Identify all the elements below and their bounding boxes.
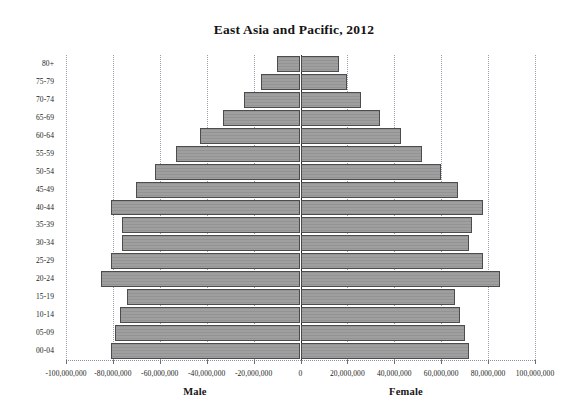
pyramid-row	[66, 145, 535, 163]
y-tick-label-20-24: 20-24	[0, 274, 54, 283]
x-tick-label-40000000: 40,000,000	[377, 369, 412, 378]
bar-female-55-59	[301, 146, 423, 162]
x-tick-label--40000000: -40,000,000	[188, 369, 225, 378]
bar-female-05-09	[301, 325, 465, 341]
y-tick-label-35-39: 35-39	[0, 220, 54, 229]
y-tick-label-60-64: 60-64	[0, 131, 54, 140]
pyramid-row	[66, 306, 535, 324]
bar-male-50-54	[155, 164, 300, 180]
x-tick-mark-60000000	[441, 360, 442, 364]
x-tick-mark--60000000	[160, 360, 161, 364]
bar-male-00-04	[111, 343, 301, 359]
bar-male-10-14	[120, 307, 301, 323]
x-tick-mark--20000000	[254, 360, 255, 364]
pyramid-row	[66, 55, 535, 73]
y-tick-label-50-54: 50-54	[0, 167, 54, 176]
bar-male-20-24	[101, 271, 300, 287]
y-tick-label-55-59: 55-59	[0, 149, 54, 158]
plot-area	[66, 55, 535, 360]
pyramid-row	[66, 288, 535, 306]
y-tick-label-80+: 80+	[0, 59, 54, 68]
bar-female-65-69	[301, 110, 381, 126]
axis-label-female: Female	[389, 386, 423, 397]
y-tick-label-70-74: 70-74	[0, 95, 54, 104]
pyramid-row	[66, 342, 535, 360]
pyramid-row	[66, 163, 535, 181]
bar-male-05-09	[115, 325, 300, 341]
x-axis-tick-labels: -100,000,000-80,000,000-60,000,000-40,00…	[0, 369, 588, 383]
x-tick-label-0: 0	[299, 369, 303, 378]
x-tick-mark--100000000	[66, 360, 67, 364]
pyramid-row	[66, 127, 535, 145]
pyramid-row	[66, 91, 535, 109]
bar-male-30-34	[122, 235, 300, 251]
x-tick-mark-100000000	[535, 360, 536, 364]
bar-female-70-74	[301, 92, 362, 108]
pyramid-row	[66, 199, 535, 217]
pyramid-row	[66, 252, 535, 270]
x-tick-label--100000000: -100,000,000	[45, 369, 86, 378]
y-tick-label-40-44: 40-44	[0, 203, 54, 212]
bar-female-15-19	[301, 289, 456, 305]
bar-male-55-59	[176, 146, 300, 162]
y-tick-label-30-34: 30-34	[0, 238, 54, 247]
x-tick-label--60000000: -60,000,000	[141, 369, 178, 378]
bar-female-20-24	[301, 271, 500, 287]
y-axis-age-group-labels: 00-0405-0910-1415-1920-2425-2930-3435-39…	[0, 55, 62, 360]
y-tick-label-05-09: 05-09	[0, 328, 54, 337]
pyramid-row	[66, 216, 535, 234]
x-tick-mark-0	[301, 360, 302, 364]
bar-male-25-29	[111, 253, 301, 269]
bar-male-75-79	[261, 74, 301, 90]
bar-female-35-39	[301, 217, 472, 233]
bar-male-70-74	[244, 92, 300, 108]
bar-male-60-64	[200, 128, 301, 144]
pyramid-row	[66, 181, 535, 199]
bar-female-00-04	[301, 343, 470, 359]
bar-female-25-29	[301, 253, 484, 269]
y-tick-label-45-49: 45-49	[0, 185, 54, 194]
y-tick-label-10-14: 10-14	[0, 310, 54, 319]
pyramid-row	[66, 109, 535, 127]
x-tick-mark-80000000	[488, 360, 489, 364]
bar-female-50-54	[301, 164, 442, 180]
bar-female-75-79	[301, 74, 348, 90]
x-tick-label--20000000: -20,000,000	[235, 369, 272, 378]
bar-female-30-34	[301, 235, 470, 251]
y-tick-label-75-79: 75-79	[0, 77, 54, 86]
x-tick-label-60000000: 60,000,000	[424, 369, 459, 378]
x-tick-label-100000000: 100,000,000	[516, 369, 555, 378]
bar-female-40-44	[301, 200, 484, 216]
pyramid-row	[66, 324, 535, 342]
pyramid-row	[66, 270, 535, 288]
bar-female-60-64	[301, 128, 402, 144]
bar-male-35-39	[122, 217, 300, 233]
y-tick-label-00-04: 00-04	[0, 346, 54, 355]
x-tick-mark--40000000	[207, 360, 208, 364]
x-tick-mark-40000000	[394, 360, 395, 364]
pyramid-row	[66, 73, 535, 91]
x-tick-label-80000000: 80,000,000	[471, 369, 506, 378]
bar-male-80+	[277, 56, 300, 72]
x-tick-mark--80000000	[113, 360, 114, 364]
y-tick-label-65-69: 65-69	[0, 113, 54, 122]
gridline-100000000	[535, 55, 536, 360]
bar-male-40-44	[111, 200, 301, 216]
bar-male-45-49	[136, 182, 300, 198]
chart-title: East Asia and Pacific, 2012	[0, 22, 588, 38]
bar-male-65-69	[223, 110, 300, 126]
axis-label-male: Male	[183, 386, 207, 397]
bar-female-80+	[301, 56, 340, 72]
y-tick-label-25-29: 25-29	[0, 256, 54, 265]
population-pyramid-chart: East Asia and Pacific, 2012 00-0405-0910…	[0, 0, 588, 415]
bar-male-15-19	[127, 289, 301, 305]
x-tick-mark-20000000	[347, 360, 348, 364]
bar-female-45-49	[301, 182, 458, 198]
x-tick-label--80000000: -80,000,000	[94, 369, 131, 378]
y-tick-label-15-19: 15-19	[0, 292, 54, 301]
pyramid-row	[66, 234, 535, 252]
x-tick-label-20000000: 20,000,000	[330, 369, 365, 378]
bar-female-10-14	[301, 307, 460, 323]
